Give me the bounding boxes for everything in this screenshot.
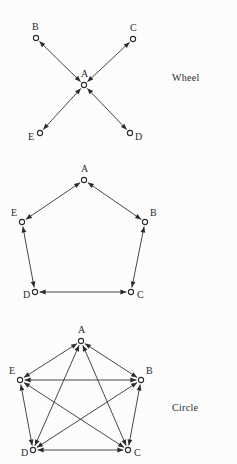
edge-A-E <box>43 88 81 129</box>
edge-A-C <box>83 345 126 446</box>
node-e[interactable] <box>37 130 42 135</box>
edge-A-D <box>35 345 79 446</box>
edge-A-B <box>88 183 141 220</box>
node-b[interactable] <box>138 377 143 382</box>
node-label-b: B <box>146 365 153 376</box>
node-a[interactable] <box>81 177 86 182</box>
node-c[interactable] <box>128 289 133 294</box>
node-label-b: B <box>32 21 39 32</box>
node-d[interactable] <box>30 447 35 452</box>
edge-B-E <box>25 378 137 383</box>
node-label-a: A <box>81 163 89 174</box>
node-label-d: D <box>21 447 28 458</box>
node-a[interactable] <box>81 82 86 87</box>
edge-A-B <box>39 41 80 82</box>
node-label-d: D <box>135 131 142 142</box>
edge-B-C <box>131 227 146 288</box>
edge-C-D <box>40 290 127 295</box>
edge-A-B <box>85 344 137 378</box>
node-label-e: E <box>9 365 15 376</box>
figure-page: ABCDE Wheel ABCDE Circle ABCDE All−chann… <box>0 0 237 464</box>
node-label-c: C <box>137 289 144 300</box>
all-channel-diagram: ABCDE All−channel. <box>0 315 237 464</box>
node-b[interactable] <box>142 219 147 224</box>
node-c[interactable] <box>125 447 130 452</box>
node-label-a: A <box>81 68 89 79</box>
edge-B-D <box>37 383 137 448</box>
edge-A-E <box>24 343 77 377</box>
node-d[interactable] <box>32 289 37 294</box>
edge-D-E <box>22 227 36 288</box>
node-label-d: D <box>23 289 30 300</box>
node-label-c: C <box>134 447 141 458</box>
node-label-e: E <box>11 207 17 218</box>
edge-C-D <box>38 448 124 453</box>
wheel-graph: ABCDE <box>0 0 237 155</box>
node-label-c: C <box>130 22 137 33</box>
node-label-e: E <box>28 131 34 142</box>
circle-diagram: ABCDE Circle <box>0 155 237 315</box>
node-label-b: B <box>150 207 157 218</box>
node-b[interactable] <box>33 35 38 40</box>
edge-B-C <box>128 385 142 446</box>
node-e[interactable] <box>17 377 22 382</box>
node-c[interactable] <box>130 36 135 41</box>
node-e[interactable] <box>19 219 24 224</box>
edge-E-A <box>26 183 80 220</box>
edge-A-D <box>87 88 127 129</box>
node-label-a: A <box>78 324 86 335</box>
node-a[interactable] <box>78 338 83 343</box>
circle-graph: ABCDE <box>0 155 237 315</box>
edge-A-C <box>87 42 129 82</box>
edge-D-E <box>20 385 34 446</box>
wheel-caption: Wheel <box>172 72 200 83</box>
wheel-diagram: ABCDE Wheel <box>0 0 237 155</box>
node-d[interactable] <box>127 130 132 135</box>
all-channel-graph: ABCDE <box>0 315 237 464</box>
edge-C-E <box>24 383 124 448</box>
